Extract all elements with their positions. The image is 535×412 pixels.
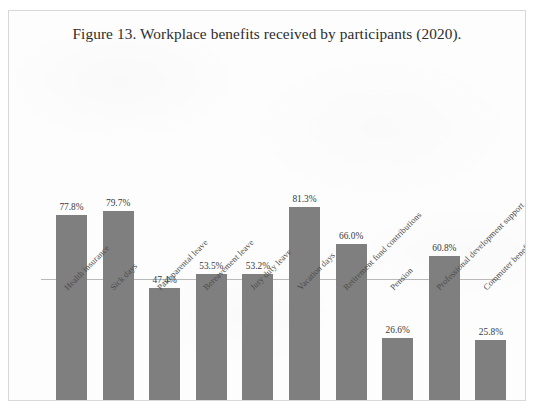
bar [382,338,413,401]
bar-value-label: 66.0% [321,231,381,241]
bar-value-label: 25.8% [461,327,521,337]
bar [475,340,506,401]
bar-value-label: 26.6% [368,325,428,335]
bar-value-label: 79.7% [88,198,148,208]
bar [149,288,180,401]
bar-value-label: 81.3% [275,194,335,204]
bar-value-label: 60.8% [414,243,474,253]
bar [289,207,320,401]
plot-area: 77.8%79.7%47.4%53.5%53.2%81.3%66.0%26.6%… [9,11,526,401]
bar [196,274,227,401]
figure-frame: Figure 13. Workplace benefits received b… [8,10,526,401]
bar [56,215,87,401]
bar [242,274,273,401]
bar [103,211,134,401]
